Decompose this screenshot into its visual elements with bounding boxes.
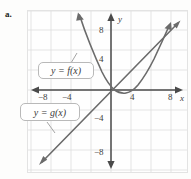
function-label-f: y = f(x) [38,62,94,79]
function-label-g: y = g(x) [20,103,80,121]
y-tick-label-8: 8 [99,25,104,35]
y-axis-name: y [118,14,122,24]
series-g-line [39,21,181,166]
y-tick-label-neg4: −4 [94,113,104,123]
y-tick-label-4: 4 [99,54,104,64]
x-axis [31,86,183,93]
plot-area [27,10,188,173]
y-tick-label-neg8: −8 [94,147,104,157]
x-tick-label-8: 8 [168,92,173,102]
figure-container: a. [0,0,191,179]
problem-letter: a. [5,9,12,19]
coordinate-plane-svg [28,11,187,172]
x-tick-label-neg4: −4 [62,92,72,102]
x-tick-label-4: 4 [130,92,135,102]
grid-lines [28,11,187,172]
series-f-parabola [76,13,172,94]
x-axis-name: x [180,93,184,103]
x-tick-label-neg8: −8 [38,92,48,102]
